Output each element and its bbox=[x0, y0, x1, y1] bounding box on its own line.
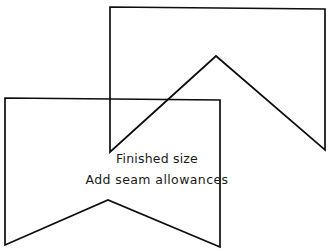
canvas-background bbox=[0, 0, 330, 251]
pattern-diagram-page: Finished size Add seam allowances bbox=[0, 0, 330, 251]
pattern-drawing bbox=[0, 0, 330, 251]
